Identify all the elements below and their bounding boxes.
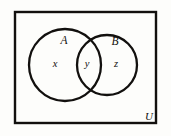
- venn-diagram-canvas: A B x y z U: [0, 0, 171, 136]
- region-b-only-label: z: [113, 58, 118, 69]
- universal-set-label: U: [145, 110, 154, 122]
- set-a-label: A: [59, 34, 68, 46]
- venn-diagram-figure: A B x y z U: [0, 0, 171, 136]
- set-b-label: B: [111, 35, 118, 47]
- region-intersection-label: y: [84, 58, 90, 69]
- region-a-only-label: x: [52, 58, 58, 69]
